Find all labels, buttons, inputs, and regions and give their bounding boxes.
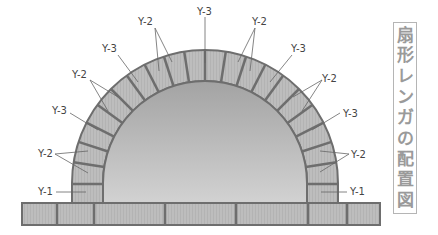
label-left-y2-low: Y-2 [37, 148, 53, 159]
brick-arch-diagram: Y-3 Y-2 Y-2 Y-3 Y-3 Y-2 Y-2 Y-3 Y-3 Y-2 … [0, 0, 438, 235]
label-left-y3-upper: Y-3 [101, 43, 117, 54]
title-char: レ [397, 67, 414, 86]
label-right-y1: Y-1 [349, 186, 365, 197]
label-top-y3: Y-3 [196, 6, 212, 17]
title-char: ガ [397, 108, 414, 127]
label-right-y3-mid: Y-3 [342, 108, 358, 119]
label-right-y3-upper: Y-3 [290, 43, 306, 54]
label-left-y1: Y-1 [37, 186, 53, 197]
title-char: 配 [397, 150, 414, 169]
title-char: 扇 [397, 26, 414, 45]
label-right-y2-top: Y-2 [251, 16, 267, 27]
label-right-y2-low: Y-2 [350, 149, 366, 160]
title-char: ン [397, 88, 414, 107]
label-left-y3-mid: Y-3 [51, 105, 67, 116]
label-right-y2-mid: Y-2 [321, 73, 337, 84]
base-brick-row [22, 203, 380, 225]
title-char: 形 [397, 46, 414, 65]
title-char: 置 [397, 170, 414, 189]
label-left-y2-top: Y-2 [137, 16, 153, 27]
diagram-title: 扇 形 レ ン ガ の 配 置 図 [393, 22, 417, 214]
title-char: 図 [397, 191, 414, 210]
label-left-y2-mid: Y-2 [71, 69, 87, 80]
title-char: の [397, 129, 414, 148]
